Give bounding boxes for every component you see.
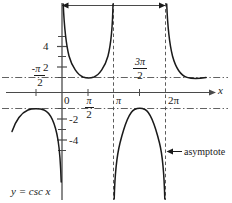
period-marker-arrow-right: [159, 3, 166, 9]
x-axis-arrowhead: [209, 90, 216, 96]
asymptote-annotation-arrowhead: [167, 149, 174, 155]
x-tick-label-neg-half-pi: -π 2: [26, 64, 46, 88]
pi-glyph-2: π: [82, 96, 96, 107]
figure-caption: y = csc x: [11, 185, 50, 197]
curve-branch-left-negative: [12, 109, 61, 182]
x-tick-label-half-pi: π 2: [82, 96, 96, 120]
x-tick-label-neg-half-pi-numerator: -π: [26, 64, 46, 75]
x-axis-name: x: [218, 85, 223, 96]
x-tick-label-half-pi-denominator: 2: [82, 108, 96, 120]
x-tick-label-0: 0: [64, 95, 70, 106]
asymptote-annotation-label: asymptote: [184, 146, 225, 157]
x-tick-label-2pi-text: 2π: [168, 94, 179, 106]
y-tick-label-neg2: -2: [69, 114, 78, 125]
x-tick-label-pi: π: [116, 96, 121, 106]
three-pi-glyph: 3π: [129, 57, 151, 68]
curve-branch-second-negative: [114, 108, 165, 199]
x-tick-label-three-half-pi: 3π 2: [129, 57, 151, 81]
x-tick-label-2pi: 2π: [168, 95, 179, 106]
pi-glyph-1: π: [35, 63, 40, 74]
x-tick-label-neg-half-pi-denominator: 2: [34, 76, 46, 88]
curve-branch-first-positive: [63, 4, 113, 78]
y-tick-label-4: 4: [43, 41, 49, 52]
curve-branch-third-positive: [167, 4, 206, 78]
x-tick-label-three-half-pi-denominator: 2: [129, 69, 151, 81]
y-tick-label-neg4: -4: [69, 135, 78, 146]
